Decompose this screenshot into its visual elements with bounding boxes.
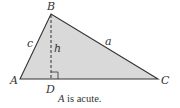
triangle-abc xyxy=(20,14,158,79)
caption-rest: is acute. xyxy=(64,93,101,104)
vertex-label-a: A xyxy=(9,74,18,87)
altitude-label-h: h xyxy=(54,42,61,55)
triangle-diagram: B A C D c h a A is acute. xyxy=(0,0,180,108)
caption: A is acute. xyxy=(57,93,101,104)
foot-label-d: D xyxy=(45,83,55,96)
vertex-label-b: B xyxy=(46,0,55,13)
vertex-label-c: C xyxy=(161,74,170,87)
side-label-c: c xyxy=(27,37,33,50)
side-label-a: a xyxy=(105,35,112,48)
